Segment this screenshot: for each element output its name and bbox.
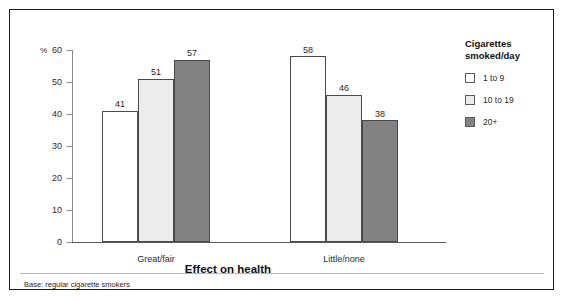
legend-item-20-plus: 20+ bbox=[465, 117, 553, 127]
bar-value-little-none-20-plus: 38 bbox=[362, 110, 398, 119]
chart-frame: % 0 10 20 30 40 50 60 41 51 bbox=[9, 9, 554, 290]
y-tick-label-20: 20 bbox=[40, 174, 62, 183]
legend-title: Cigarettes smoked/day bbox=[465, 38, 553, 61]
legend-label-20-plus: 20+ bbox=[483, 118, 497, 127]
y-tick-label-50: 50 bbox=[40, 78, 62, 87]
y-tick-label-0: 0 bbox=[40, 238, 62, 247]
legend-title-line-2: smoked/day bbox=[465, 50, 553, 62]
footnote-text: Base: regular cigarette smokers bbox=[24, 280, 130, 289]
y-tick-label-10: 10 bbox=[40, 206, 62, 215]
bar-value-great-fair-10-to-19: 51 bbox=[138, 68, 174, 77]
bar-great-fair-1-to-9 bbox=[102, 111, 138, 242]
chart-screenshot: % 0 10 20 30 40 50 60 41 51 bbox=[0, 0, 563, 301]
y-tick-50 bbox=[67, 82, 72, 83]
bar-great-fair-10-to-19 bbox=[138, 79, 174, 242]
legend-label-10-to-19: 10 to 19 bbox=[483, 96, 514, 105]
y-tick-60 bbox=[67, 50, 72, 51]
legend-swatch-icon-20-plus bbox=[465, 117, 475, 127]
y-tick-10 bbox=[67, 210, 72, 211]
y-tick-0 bbox=[67, 242, 72, 243]
plot-area: 0 10 20 30 40 50 60 41 51 57 58 46 38 Gr… bbox=[72, 50, 446, 242]
bar-little-none-20-plus bbox=[362, 120, 398, 242]
bar-value-great-fair-20-plus: 57 bbox=[174, 49, 210, 58]
y-tick-40 bbox=[67, 114, 72, 115]
y-tick-label-60: 60 bbox=[40, 46, 62, 55]
footnote-divider bbox=[20, 273, 544, 274]
y-axis-line bbox=[72, 50, 73, 242]
bar-little-none-1-to-9 bbox=[290, 56, 326, 242]
legend-item-1-to-9: 1 to 9 bbox=[465, 73, 553, 83]
legend-swatch-icon-1-to-9 bbox=[465, 73, 475, 83]
bar-value-great-fair-1-to-9: 41 bbox=[102, 100, 138, 109]
legend-item-10-to-19: 10 to 19 bbox=[465, 95, 553, 105]
legend-title-line-1: Cigarettes bbox=[465, 38, 553, 50]
legend-label-1-to-9: 1 to 9 bbox=[483, 74, 504, 83]
y-tick-label-40: 40 bbox=[40, 110, 62, 119]
bar-value-little-none-10-to-19: 46 bbox=[326, 84, 362, 93]
legend: Cigarettes smoked/day 1 to 9 10 to 19 20… bbox=[465, 38, 553, 139]
x-axis-line bbox=[72, 242, 446, 243]
y-tick-20 bbox=[67, 178, 72, 179]
bar-little-none-10-to-19 bbox=[326, 95, 362, 242]
y-tick-30 bbox=[67, 146, 72, 147]
bar-great-fair-20-plus bbox=[174, 60, 210, 242]
legend-swatch-icon-10-to-19 bbox=[465, 95, 475, 105]
y-tick-label-30: 30 bbox=[40, 142, 62, 151]
bar-value-little-none-1-to-9: 58 bbox=[290, 46, 326, 55]
